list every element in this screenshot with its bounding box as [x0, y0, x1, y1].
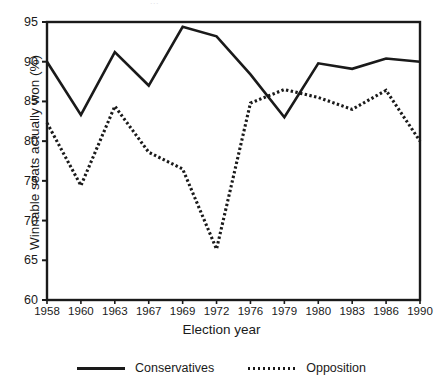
- legend-line-swatch-dotted: [248, 362, 296, 374]
- legend-entry-conservatives[interactable]: Conservatives: [77, 361, 214, 375]
- legend-label: Opposition: [306, 361, 366, 375]
- x-tick-label-1990: 1990: [400, 304, 440, 318]
- y-tick-label-75: 75: [12, 175, 38, 187]
- legend-label: Conservatives: [135, 361, 214, 375]
- plot-frame: [47, 22, 420, 300]
- x-axis-tick-labels: 1958196019631967196919721976197919801983…: [0, 304, 443, 322]
- y-tick-label-70: 70: [12, 215, 38, 227]
- data-series-layer: [47, 27, 420, 249]
- y-tick-label-95: 95: [12, 16, 38, 28]
- series-line-opposition: [47, 90, 420, 250]
- cropped-title-artifact: ...: [150, 0, 310, 5]
- chart-legend: ConservativesOpposition: [0, 355, 443, 381]
- y-tick-label-90: 90: [12, 56, 38, 68]
- y-tick-label-85: 85: [12, 95, 38, 107]
- x-axis-title: Election year: [0, 322, 443, 337]
- y-tick-label-65: 65: [12, 254, 38, 266]
- legend-line-swatch-solid: [77, 362, 125, 374]
- legend-entry-opposition[interactable]: Opposition: [248, 361, 366, 375]
- chart-figure: ... Winnable seats actually won (%) 6065…: [0, 0, 443, 386]
- y-tick-label-80: 80: [12, 135, 38, 147]
